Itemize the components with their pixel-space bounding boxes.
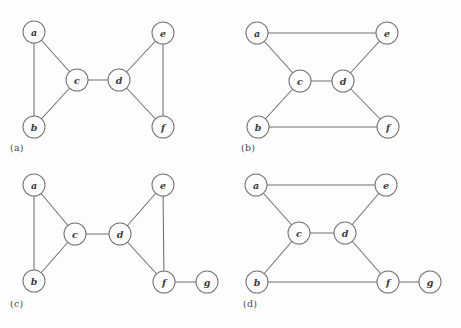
node-d: d [334, 222, 356, 244]
node-label-b: b [31, 276, 38, 287]
node-label-c: c [72, 229, 78, 240]
node-label-g: g [427, 277, 434, 288]
panel-caption-b: (b) [241, 142, 255, 153]
graph-drawing-c: abcdefg [0, 164, 230, 328]
node-label-e: e [383, 180, 389, 191]
node-f: f [377, 271, 399, 293]
node-g: g [196, 271, 218, 293]
graph-drawing-a: abcdef [0, 0, 230, 164]
panel-caption-a: (a) [10, 142, 24, 153]
node-label-e: e [160, 28, 166, 39]
node-c: c [288, 222, 310, 244]
node-d: d [108, 69, 130, 91]
node-label-d: d [342, 228, 349, 239]
node-g: g [419, 271, 441, 293]
panel-caption-d: (d) [243, 298, 257, 309]
node-e: e [375, 174, 397, 196]
node-d: d [109, 223, 131, 245]
node-b: b [23, 270, 45, 292]
node-group: abcdefg [23, 174, 218, 293]
node-label-b: b [255, 122, 262, 133]
edge-group [34, 32, 163, 127]
node-a: a [245, 174, 267, 196]
node-e: e [376, 22, 398, 44]
edge-group [257, 33, 388, 127]
node-label-b: b [31, 122, 38, 133]
node-group: aecdbfg [245, 174, 441, 293]
node-label-d: d [340, 76, 347, 87]
node-label-c: c [296, 228, 302, 239]
node-b: b [23, 116, 45, 138]
node-label-a: a [31, 27, 37, 38]
node-e: e [152, 174, 174, 196]
node-label-d: d [117, 229, 124, 240]
node-f: f [152, 116, 174, 138]
graph-panel-b: aecdbf(b) [231, 0, 461, 164]
node-label-g: g [204, 277, 211, 288]
node-a: a [23, 174, 45, 196]
graph-drawing-d: aecdbfg [231, 164, 461, 328]
graph-panel-c: abcdefg(c) [0, 164, 230, 328]
node-label-d: d [116, 75, 123, 86]
node-label-c: c [74, 75, 80, 86]
node-e: e [152, 22, 174, 44]
node-group: aecdbf [246, 22, 399, 138]
node-b: b [247, 116, 269, 138]
node-label-a: a [253, 180, 259, 191]
node-label-a: a [31, 180, 37, 191]
node-label-c: c [297, 76, 303, 87]
node-c: c [64, 223, 86, 245]
node-label-e: e [160, 180, 166, 191]
node-f: f [377, 116, 399, 138]
node-b: b [246, 271, 268, 293]
graph-panel-d: aecdbfg(d) [231, 164, 461, 328]
node-f: f [153, 271, 175, 293]
node-d: d [332, 70, 354, 92]
panel-caption-c: (c) [10, 298, 23, 309]
node-c: c [289, 70, 311, 92]
edge-e-f [163, 185, 164, 282]
figure-canvas: abcdef(a)aecdbf(b)abcdefg(c)aecdbfg(d) [0, 0, 461, 328]
node-label-b: b [254, 277, 261, 288]
node-label-a: a [254, 28, 260, 39]
graph-panel-a: abcdef(a) [0, 0, 230, 164]
graph-drawing-b: aecdbf [231, 0, 461, 164]
node-a: a [23, 21, 45, 43]
node-label-e: e [384, 28, 390, 39]
node-a: a [246, 22, 268, 44]
node-c: c [66, 69, 88, 91]
